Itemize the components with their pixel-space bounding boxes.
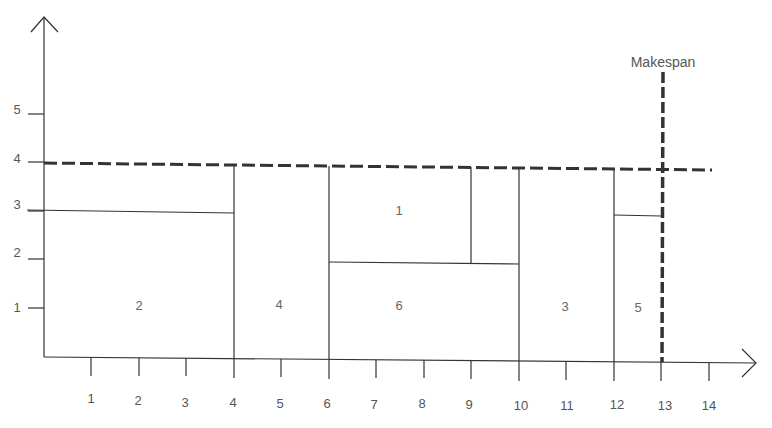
x-label-8: 8 — [418, 396, 425, 411]
job-label-1: 1 — [395, 203, 402, 218]
job-label-2: 2 — [135, 298, 142, 313]
x-label-12: 12 — [610, 397, 624, 412]
job-label-6: 6 — [395, 298, 402, 313]
x-label-3: 3 — [181, 395, 188, 410]
capacity-line — [44, 163, 712, 170]
x-label-14: 14 — [702, 398, 716, 413]
x-axis — [44, 357, 756, 363]
job-label-4: 4 — [275, 297, 282, 312]
x-label-6: 6 — [323, 396, 330, 411]
job-6-top — [329, 262, 519, 264]
y-label-3: 3 — [13, 197, 20, 212]
job-5-top — [614, 215, 661, 216]
makespan-label: Makespan — [631, 54, 696, 70]
y-label-2: 2 — [13, 245, 20, 260]
x-label-1: 1 — [87, 391, 94, 406]
x-label-13: 13 — [658, 398, 672, 413]
job-label-3: 3 — [561, 299, 568, 314]
job-2-top — [27, 210, 234, 213]
x-label-10: 10 — [514, 398, 528, 413]
y-label-5: 5 — [13, 102, 20, 117]
x-label-11: 11 — [560, 398, 574, 413]
schedule-diagram: 1 2 3 4 5 1 2 3 4 5 6 7 8 9 10 11 12 13 … — [0, 0, 772, 428]
x-label-9: 9 — [465, 397, 472, 412]
y-label-4: 4 — [13, 151, 20, 166]
x-label-7: 7 — [370, 397, 377, 412]
x-label-2: 2 — [134, 393, 141, 408]
x-label-5: 5 — [276, 396, 283, 411]
y-ticks — [28, 114, 44, 308]
y-label-1: 1 — [13, 300, 20, 315]
job-label-5: 5 — [634, 300, 641, 315]
makespan-line — [662, 72, 663, 362]
x-label-4: 4 — [229, 395, 236, 410]
